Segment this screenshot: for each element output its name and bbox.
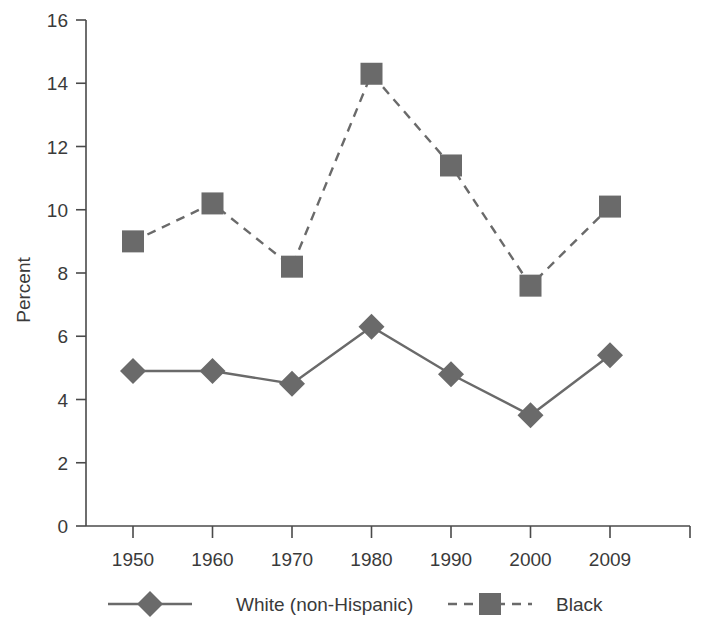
data-point-marker [202,192,224,214]
legend-label: Black [556,594,603,615]
x-tick: 2000 [509,526,551,570]
y-axis-title-text: Percent [13,257,34,323]
series-white-non-hispanic [120,314,623,429]
data-point-marker [359,314,385,340]
data-point-marker [518,402,544,428]
x-tick-label: 1990 [430,549,472,570]
chart-legend: White (non-Hispanic)Black [108,591,603,617]
y-tick-label: 10 [47,200,68,221]
x-tick-label: 1950 [112,549,154,570]
y-tick: 10 [47,200,86,221]
x-tick: 1970 [271,526,313,570]
legend-label: White (non-Hispanic) [236,594,413,615]
x-axis-ticks: 1950196019701980199020002009 [112,526,690,570]
y-tick-label: 14 [47,73,69,94]
data-point-marker [281,256,303,278]
axes [86,20,690,526]
y-tick: 12 [47,137,86,158]
series-line [133,74,610,286]
x-tick: 1990 [430,526,472,570]
chart-container: Percent 0246810121416 195019601970198019… [0,0,701,628]
x-tick: 1950 [112,526,154,570]
legend-item-black[interactable]: Black [448,593,603,615]
y-tick: 16 [47,10,86,31]
data-point-marker [597,342,623,368]
x-tick-label: 1970 [271,549,313,570]
legend-marker-sample [479,593,501,615]
y-axis-ticks: 0246810121416 [47,10,86,537]
y-tick-label: 12 [47,137,68,158]
data-point-marker [520,275,542,297]
data-point-marker [440,154,462,176]
data-point-marker [438,361,464,387]
data-point-marker [599,196,621,218]
y-tick-label: 0 [57,516,68,537]
data-point-marker [361,63,383,85]
y-tick-label: 4 [57,390,68,411]
series-black [122,63,621,297]
y-tick-label: 6 [57,326,68,347]
y-axis-title: Percent [13,257,34,323]
legend-item-white-non-hispanic[interactable]: White (non-Hispanic) [108,591,413,617]
y-tick: 14 [47,73,86,94]
y-tick-label: 2 [57,453,68,474]
x-tick-label: 1980 [350,549,392,570]
data-point-marker [122,230,144,252]
data-point-marker [120,358,146,384]
x-tick: 2009 [589,526,631,570]
x-tick-label: 1960 [191,549,233,570]
x-tick: 1960 [191,526,233,570]
legend-marker-sample [137,591,163,617]
line-chart: Percent 0246810121416 195019601970198019… [0,0,701,628]
y-tick: 2 [57,453,86,474]
y-tick-label: 8 [57,263,68,284]
y-tick-label: 16 [47,10,68,31]
x-tick-label: 2000 [509,549,551,570]
y-tick: 6 [57,326,86,347]
data-point-marker [200,358,226,384]
y-tick: 4 [57,390,86,411]
y-tick: 8 [57,263,86,284]
y-tick: 0 [57,516,86,537]
x-tick: 1980 [350,526,392,570]
x-tick-label: 2009 [589,549,631,570]
data-point-marker [279,371,305,397]
series-layer [120,63,623,429]
